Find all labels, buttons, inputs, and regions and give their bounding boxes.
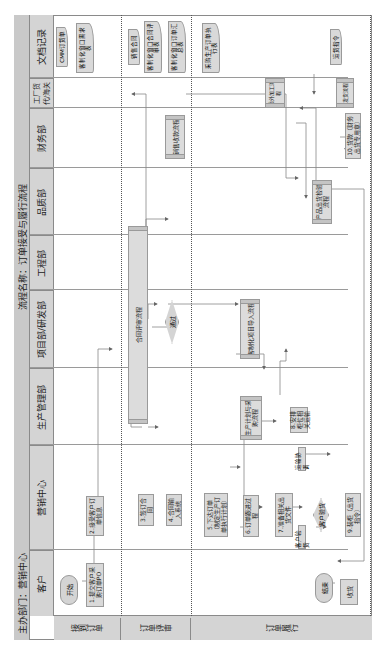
step-3-sign-contract: 3.签订合同 [138, 494, 154, 526]
doc-custom-review-form: 客制化窗口合同评审表 [144, 21, 162, 73]
lane-factory: 工厂货代/海关 [30, 78, 54, 108]
title-bar: 主办部门：营销中心 流程名称：订单接受与履行流程 [14, 15, 30, 640]
customer-inspection-decision: 客户验货 [313, 498, 329, 532]
receive-goods: 收货 [340, 579, 358, 605]
lane-docs: 文档记录 [30, 15, 54, 78]
shipping-process: 发货流程 [336, 78, 354, 108]
step-4-contract-input: 4.合同输入系统 [166, 494, 182, 526]
lane-quality: 品质部 [30, 168, 54, 235]
lane-divider [30, 107, 348, 108]
pass-decision: 通过 [165, 300, 179, 344]
lane-divider [30, 289, 348, 290]
lane-divider [30, 167, 348, 168]
sales-payment-process: 销售收款流程 [165, 115, 185, 159]
step-1-submit-po: 1.提交客户采购订单PO [86, 563, 104, 607]
step-9-loading: 9.装柜（出货指令） [345, 493, 361, 537]
outsource-process: 委外加工流程 [265, 78, 285, 108]
phase-receive-order: 接到订单 [54, 618, 121, 640]
step-7-prepare-shipping-docs: 7.准备相关出货文件 [275, 493, 293, 537]
swimlane-flowchart: 主办部门：营销中心 流程名称：订单接受与履行流程 接到订单 订单评审 订单履行 … [0, 0, 389, 649]
lane-customer: 客户 [30, 550, 54, 616]
end-terminal: 结束 [315, 573, 333, 603]
doc-custom-window-order-summary: 客制化窗口订单汇总表 [168, 21, 186, 73]
doc-custom-requirement: 客制化窗口需求表 [76, 23, 94, 73]
lane-divider [30, 234, 348, 235]
product-shipment-inspection: 产品出货检验流程 [312, 180, 332, 224]
contract-review-process: 合同评审流程 [128, 226, 148, 424]
step-5-place-order: 5.下达订单（制定生产订单执行计划） [204, 493, 228, 537]
doc-production-order-execution: 采购生产订单执行表 [202, 23, 220, 73]
step-2-accept-order: 2.接受客户订单信息 [86, 496, 104, 536]
phase-divider [370, 15, 371, 616]
lane-engineering: 工程部 [30, 235, 54, 290]
note-transport: 运输协调 [298, 447, 306, 471]
phase-fulfillment: 订单履行 [191, 618, 372, 640]
lane-sales: 营销中心 [30, 445, 54, 550]
phase-order-review: 订单评审 [121, 618, 191, 640]
lane-production: 生产管理部 [30, 368, 54, 445]
phase-divider [121, 15, 122, 616]
production-plan-procurement: 生产计划与采购流程 [240, 396, 262, 440]
custom-project-import: 客制化项目导入流程 [240, 299, 260, 359]
lane-finance: 财务部 [30, 108, 54, 168]
note-customer-inspect: 客户验货 [298, 525, 306, 549]
process-name: 流程名称：订单接受与履行流程 [16, 184, 29, 310]
phase-divider [191, 15, 192, 616]
lane-divider [30, 77, 348, 78]
chart-frame [14, 15, 372, 640]
host-department: 主办部门：营销中心 [16, 553, 29, 634]
doc-sales-contract: 销售合同 [128, 29, 140, 65]
lane-divider [30, 367, 348, 368]
doc-shipping-notice: 运货指令 [330, 29, 342, 65]
lane-divider [30, 444, 348, 445]
step-6-order-follow-up: 6.订单跟进过程 [243, 495, 259, 537]
start-terminal: 开始 [60, 575, 78, 605]
step-10-payment: 10.货款（财务出货专用章） [345, 113, 361, 159]
lane-project: 项目部/研发部 [30, 290, 54, 368]
step-8-arrange-transport: 8.安排柜位相关运输 [290, 407, 308, 433]
lane-divider [30, 549, 348, 550]
doc-cmm-order: CMM订货单 [56, 27, 68, 67]
phase-column: 接到订单 订单评审 订单履行 [54, 615, 372, 640]
